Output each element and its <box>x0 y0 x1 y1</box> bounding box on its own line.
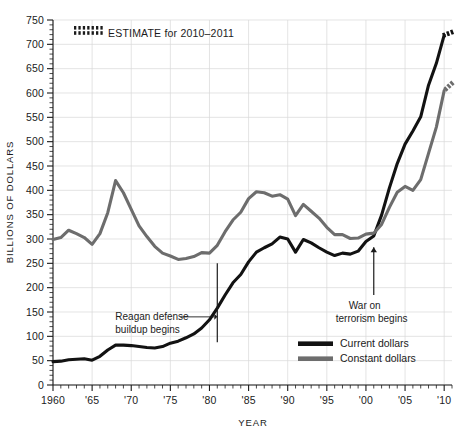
x-tick-label: '70 <box>124 394 138 406</box>
estimate-hatch-cell <box>87 26 89 30</box>
estimate-hatch-cell <box>74 26 76 30</box>
estimate-note-label: ESTIMATE for 2010–2011 <box>108 27 234 39</box>
y-tick-label: 0 <box>38 379 44 391</box>
y-tick-label: 150 <box>26 306 44 318</box>
legend: Current dollarsConstant dollars <box>298 337 416 364</box>
legend-swatch <box>298 356 333 361</box>
x-tick-label: '00 <box>359 394 373 406</box>
estimate-break-mark <box>447 31 449 35</box>
x-axis-title: YEAR <box>238 417 267 428</box>
y-tick-label: 200 <box>26 281 44 293</box>
y-tick-label: 100 <box>26 330 44 342</box>
chart-canvas: 0501001502002503003504004505005506006507… <box>0 0 461 432</box>
y-tick-label: 450 <box>26 160 44 172</box>
xtick-label-layer: 1960'65'70'75'80'85'90'95'00'05'10 <box>41 394 451 406</box>
x-tick-label: '10 <box>437 394 451 406</box>
estimate-hatch-cell <box>87 31 89 35</box>
x-tick-label: 1960 <box>41 394 65 406</box>
estimate-hatch-cell <box>78 31 80 35</box>
estimate-hatch-cell <box>92 31 94 35</box>
x-tick-label: '75 <box>163 394 177 406</box>
legend-label: Constant dollars <box>340 352 416 364</box>
x-tick-label: '90 <box>281 394 295 406</box>
y-tick-label: 400 <box>26 184 44 196</box>
y-tick-label: 600 <box>26 87 44 99</box>
y-tick-label: 250 <box>26 257 44 269</box>
defense-spending-chart: 0501001502002503003504004505005506006507… <box>0 0 461 432</box>
y-tick-label: 50 <box>32 354 44 366</box>
annotation-text-line2: buildup begins <box>115 324 180 335</box>
x-tick-label: '05 <box>398 394 412 406</box>
y-tick-label: 300 <box>26 233 44 245</box>
break-mark-layer <box>443 30 453 91</box>
estimate-hatch-cell <box>96 31 98 35</box>
annotation-text-line2: terrorism begins <box>336 313 408 324</box>
x-tick-label: '85 <box>241 394 255 406</box>
estimate-hatch-cell <box>96 26 98 30</box>
estimate-hatch-cell <box>83 31 85 35</box>
estimate-hatch-cell <box>100 26 102 30</box>
estimate-hatch-swatch <box>74 26 103 35</box>
estimate-hatch-cell <box>100 31 102 35</box>
estimate-note: ESTIMATE for 2010–2011 <box>74 26 234 39</box>
y-tick-label: 650 <box>26 62 44 74</box>
estimate-hatch-cell <box>83 26 85 30</box>
annotation-arrowhead <box>371 247 377 252</box>
estimate-break-mark <box>451 30 453 34</box>
y-axis-title: BILLIONS OF DOLLARS <box>4 141 15 264</box>
annotation-text-line1: War on <box>349 300 381 311</box>
legend-swatch <box>298 341 333 346</box>
x-tick-label: '80 <box>202 394 216 406</box>
x-tick-label: '95 <box>320 394 334 406</box>
estimate-hatch-cell <box>92 26 94 30</box>
y-tick-label: 550 <box>26 111 44 123</box>
y-tick-label: 500 <box>26 135 44 147</box>
estimate-hatch-cell <box>74 31 76 35</box>
estimate-break-mark <box>443 33 445 37</box>
y-tick-label: 350 <box>26 208 44 220</box>
ytick-label-layer: 0501001502002503003504004505005506006507… <box>26 14 44 391</box>
y-tick-label: 700 <box>26 38 44 50</box>
estimate-break-mark <box>447 84 450 88</box>
estimate-break-mark <box>450 82 453 86</box>
legend-label: Current dollars <box>340 337 409 349</box>
x-tick-label: '65 <box>85 394 99 406</box>
annotation-text-line1: Reagan defense <box>115 311 189 322</box>
y-tick-label: 750 <box>26 14 44 26</box>
estimate-hatch-cell <box>78 26 80 30</box>
annotation-layer: Reagan defensebuildup beginsWar onterror… <box>115 247 407 342</box>
